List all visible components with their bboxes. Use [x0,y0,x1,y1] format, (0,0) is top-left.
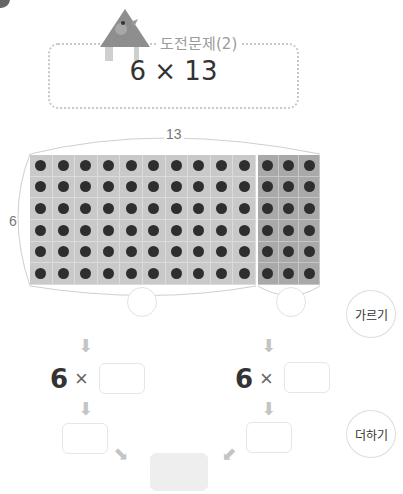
array-cell [188,198,211,220]
dot-array-right-section [258,155,320,285]
array-cell [258,177,279,199]
dot-icon [171,268,182,279]
array-cell [299,242,320,264]
array-cell [258,242,279,264]
add-bubble: 더하기 [346,410,396,458]
dot-icon [283,268,294,279]
dot-icon [58,225,69,236]
dot-icon [58,246,69,257]
dot-icon [262,160,273,171]
dot-icon [171,181,182,192]
array-cell [143,177,166,199]
array-cell [211,242,234,264]
array-cell [279,242,300,264]
array-cell [30,220,53,242]
dot-icon [239,203,250,214]
dot-icon [216,225,227,236]
right-split-answer-circle[interactable] [276,287,306,317]
dot-icon [283,203,294,214]
dot-icon [262,268,273,279]
array-cell [299,155,320,177]
dot-icon [193,160,204,171]
dot-icon [283,181,294,192]
array-cell [188,242,211,264]
dot-icon [58,181,69,192]
right-product-input[interactable] [246,422,292,453]
dot-icon [304,246,315,257]
array-cell [233,263,256,285]
array-cell [53,177,76,199]
dot-icon [126,246,137,257]
dot-icon [58,160,69,171]
array-cell [143,155,166,177]
dot-icon [262,181,273,192]
array-cell [258,155,279,177]
total-answer-box[interactable] [150,453,208,491]
left-factor-input[interactable] [99,363,145,394]
array-cell [211,198,234,220]
dot-icon [148,203,159,214]
dot-icon [35,225,46,236]
dot-icon [216,160,227,171]
array-cell [299,177,320,199]
problem-expression: 6 × 13 [48,56,299,86]
array-cell [211,177,234,199]
left-product-input[interactable] [62,423,108,454]
dot-icon [262,225,273,236]
dot-icon [283,246,294,257]
dot-icon [80,203,91,214]
array-cell [211,263,234,285]
dot-icon [126,268,137,279]
array-cell [299,263,320,285]
dot-icon [304,181,315,192]
dot-icon [126,160,137,171]
dot-icon [148,160,159,171]
dot-icon [304,225,315,236]
dot-icon [239,246,250,257]
array-cell [188,263,211,285]
dot-icon [262,203,273,214]
array-cell [75,242,98,264]
dot-icon [193,225,204,236]
dot-array [30,155,320,285]
array-cell [166,263,189,285]
array-cell [120,155,143,177]
array-cell [98,242,121,264]
array-cell [98,198,121,220]
array-cell [75,177,98,199]
dot-icon [103,225,114,236]
dot-icon [35,181,46,192]
dot-icon [148,268,159,279]
array-cell [233,155,256,177]
array-cell [143,220,166,242]
dot-icon [80,225,91,236]
dot-icon [103,246,114,257]
left-split-answer-circle[interactable] [127,287,157,317]
split-label: 가르기 [355,306,388,323]
dot-array-left-section [30,155,256,285]
dot-icon [216,203,227,214]
dot-icon [80,268,91,279]
dot-icon [103,181,114,192]
diagonal-arrow-icon: ⬇ [110,443,133,466]
right-factor-input[interactable] [284,362,330,393]
array-cell [98,177,121,199]
array-cell [53,198,76,220]
add-label: 더하기 [355,426,388,443]
array-cell [143,198,166,220]
array-cell [53,155,76,177]
array-cell [75,263,98,285]
dot-icon [304,203,315,214]
dot-icon [148,246,159,257]
array-cell [30,155,53,177]
array-cell [53,263,76,285]
diagonal-arrow-icon: ⬇ [217,443,240,466]
array-cell [30,177,53,199]
dot-icon [103,268,114,279]
dot-icon [171,203,182,214]
dot-icon [80,246,91,257]
width-label: 13 [164,126,184,142]
dot-icon [58,203,69,214]
dot-icon [126,203,137,214]
dot-icon [171,160,182,171]
